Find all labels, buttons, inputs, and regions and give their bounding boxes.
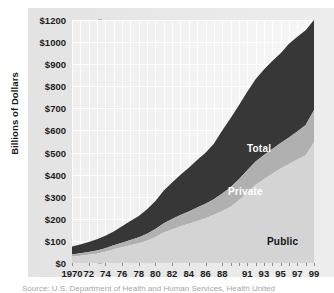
y-axis-tick-label: $200 bbox=[45, 213, 66, 224]
x-axis-tick-label: 74 bbox=[100, 268, 111, 279]
x-axis-tick-mark bbox=[122, 263, 123, 266]
chart-figure: Billions of Dollars $1200$1000$900$800$7… bbox=[0, 0, 334, 293]
x-axis-tick-mark bbox=[222, 263, 223, 266]
x-axis-tick-mark bbox=[189, 263, 190, 266]
x-axis-tick-mark bbox=[172, 263, 173, 266]
series-label-private: Private bbox=[228, 186, 263, 197]
series-label-public: Public bbox=[267, 236, 298, 247]
x-axis-tick-label: 99 bbox=[309, 268, 320, 279]
x-axis-tick-label: 1970 bbox=[61, 268, 82, 279]
x-axis-tick-label: 97 bbox=[292, 268, 303, 279]
caption-partial-text: Source: U.S. Department of Health and Hu… bbox=[22, 286, 275, 293]
plot-area: Total Private Public bbox=[72, 20, 314, 263]
x-axis-tick-mark bbox=[272, 263, 273, 266]
x-axis-tick-mark bbox=[206, 263, 207, 266]
x-axis-tick-mark bbox=[239, 263, 240, 266]
x-axis-tick-label: 82 bbox=[167, 268, 178, 279]
y-axis-tick-label: $1200 bbox=[40, 15, 66, 26]
y-axis-title: Billions of Dollars bbox=[9, 54, 20, 174]
y-axis-tick-label: $100 bbox=[45, 235, 66, 246]
x-axis-tick-mark bbox=[72, 263, 73, 266]
x-axis-tick-mark bbox=[256, 263, 257, 266]
x-axis-tick-label: 78 bbox=[134, 268, 145, 279]
x-axis-tick-label: 95 bbox=[275, 268, 286, 279]
x-axis-tick-label: 91 bbox=[242, 268, 253, 279]
x-axis-tick-mark bbox=[105, 263, 106, 266]
y-axis-tick-label: $300 bbox=[45, 191, 66, 202]
y-axis-tick-label: $500 bbox=[45, 147, 66, 158]
x-axis-tick-label: 88 bbox=[217, 268, 228, 279]
x-axis-tick-mark bbox=[289, 263, 290, 266]
x-axis-tick-mark bbox=[231, 263, 232, 266]
stacked-area-series bbox=[72, 20, 314, 263]
x-axis-tick-mark bbox=[297, 263, 298, 266]
y-axis-tick-label: $0 bbox=[55, 258, 66, 269]
x-axis-tick-mark bbox=[89, 263, 90, 266]
x-axis-tick-mark bbox=[247, 263, 248, 266]
y-axis-tick-label: $700 bbox=[45, 103, 66, 114]
x-axis-tick-label: 93 bbox=[259, 268, 270, 279]
x-axis-tick-mark bbox=[306, 263, 307, 266]
x-axis-tick-label: 84 bbox=[184, 268, 195, 279]
y-axis-tick-label: $600 bbox=[45, 125, 66, 136]
y-axis-tick-group: $1200$1000$900$800$700$600$500$400$300$2… bbox=[30, 0, 72, 293]
x-axis-tick-label: 86 bbox=[200, 268, 211, 279]
y-axis-tick-label: $800 bbox=[45, 81, 66, 92]
y-axis-tick-label: $900 bbox=[45, 59, 66, 70]
y-axis-tick-label: $1000 bbox=[40, 37, 66, 48]
y-axis-tick-label: $400 bbox=[45, 169, 66, 180]
x-axis-tick-mark bbox=[281, 263, 282, 266]
x-axis-tick-mark bbox=[264, 263, 265, 266]
x-axis-tick-mark bbox=[139, 263, 140, 266]
series-label-total: Total bbox=[247, 143, 271, 154]
x-axis-tick-mark bbox=[155, 263, 156, 266]
x-axis-tick-label: 76 bbox=[117, 268, 128, 279]
x-axis-tick-mark bbox=[314, 263, 315, 266]
caption-strip: Source: U.S. Department of Health and Hu… bbox=[0, 286, 334, 293]
x-axis-tick-label: 80 bbox=[150, 268, 161, 279]
x-axis-tick-label: 72 bbox=[83, 268, 94, 279]
